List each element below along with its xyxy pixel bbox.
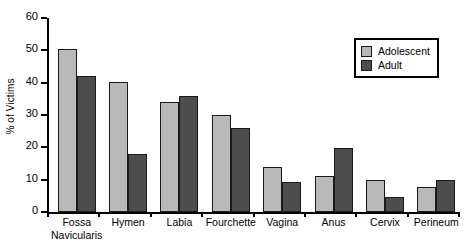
legend-label: Adult [378, 59, 402, 71]
x-axis-label-line: Hymen [111, 216, 144, 229]
bar-group [315, 18, 353, 212]
x-tick-mark [304, 212, 306, 217]
x-axis-label-line: Anus [322, 216, 346, 229]
bar-adult-6 [385, 197, 404, 212]
y-axis-line [47, 18, 49, 212]
bar-adult-4 [282, 182, 301, 212]
bar-adult-0 [77, 76, 96, 212]
x-axis-label: Cervix [370, 216, 400, 229]
x-tick-mark [150, 212, 152, 217]
x-axis-label-line: Fourchette [206, 216, 256, 229]
x-axis-label-line: Labia [167, 216, 193, 229]
x-tick-mark [201, 212, 203, 217]
bar-adult-7 [436, 180, 455, 212]
y-tick-mark [41, 82, 47, 84]
x-tick-mark [47, 212, 49, 217]
y-tick-label: 60 [26, 10, 38, 22]
y-tick-mark [41, 17, 47, 19]
x-tick-mark [407, 212, 409, 217]
y-tick-label: 40 [26, 75, 38, 87]
bar-adolescent-1 [109, 82, 128, 212]
bar-chart: % of Victims 0102030405060 FossaNavicula… [0, 0, 465, 252]
x-axis-label: FossaNavicularis [51, 216, 102, 241]
x-axis-label: Fourchette [206, 216, 256, 229]
y-tick-mark [41, 146, 47, 148]
y-tick-mark [41, 114, 47, 116]
y-tick-mark [41, 49, 47, 51]
bar-adolescent-4 [263, 167, 282, 212]
x-axis-label-line: Cervix [370, 216, 400, 229]
bar-group [212, 18, 250, 212]
bar-group [58, 18, 96, 212]
legend-item-adolescent[interactable]: Adolescent [361, 44, 430, 58]
x-axis-label: Labia [167, 216, 193, 229]
bar-group [109, 18, 147, 212]
legend: AdolescentAdult [354, 38, 439, 78]
x-axis-label-line: Vagina [266, 216, 298, 229]
y-tick-label: 20 [26, 139, 38, 151]
x-tick-mark [355, 212, 357, 217]
y-tick-mark [41, 179, 47, 181]
y-tick-label: 0 [32, 204, 38, 216]
bar-adolescent-2 [160, 102, 179, 212]
x-axis-label: Anus [322, 216, 346, 229]
x-axis-label: Hymen [111, 216, 144, 229]
bar-adult-2 [179, 96, 198, 212]
x-axis-label-line: Perineum [414, 216, 459, 229]
legend-label: Adolescent [378, 45, 430, 57]
y-tick-label: 10 [26, 172, 38, 184]
y-axis-title: % of Victims [0, 0, 20, 212]
y-axis-title-text: % of Victims [5, 78, 16, 134]
x-axis-label: Vagina [266, 216, 298, 229]
bar-adolescent-5 [315, 176, 334, 212]
y-tick-label: 30 [26, 107, 38, 119]
x-axis-label-line: Fossa [51, 216, 102, 229]
bar-adult-1 [128, 154, 147, 212]
y-tick-label: 50 [26, 42, 38, 54]
bar-adult-3 [231, 128, 250, 212]
bar-adolescent-6 [366, 180, 385, 212]
bar-adult-5 [334, 148, 353, 212]
x-axis-label: Perineum [414, 216, 459, 229]
bar-adolescent-7 [417, 187, 436, 212]
bar-group [160, 18, 198, 212]
legend-swatch-adult [361, 60, 372, 71]
bar-adolescent-3 [212, 115, 231, 212]
legend-swatch-adolescent [361, 46, 372, 57]
bar-group [263, 18, 301, 212]
bar-adolescent-0 [58, 49, 77, 212]
legend-item-adult[interactable]: Adult [361, 58, 430, 72]
x-axis-label-line: Navicularis [51, 229, 102, 242]
